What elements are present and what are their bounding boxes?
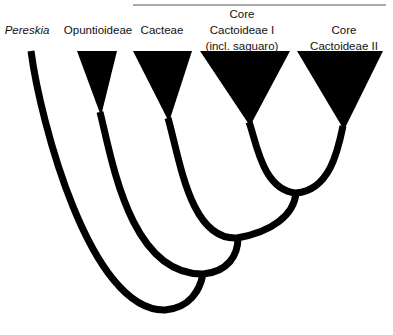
core-cactoideae-2-clade-triangle	[297, 51, 383, 130]
cacteae-clade-triangle	[133, 51, 192, 122]
taxon-label-cacteae: Cacteae	[141, 22, 184, 38]
opuntioideae-clade-triangle	[77, 51, 117, 116]
node-core-branches	[249, 122, 343, 193]
taxon-label-opuntioideae: Opuntioideae	[64, 22, 132, 38]
node-cacteae-branches	[168, 118, 296, 238]
taxon-label-core-cactoideae-2: Core Cactoideae II	[310, 22, 378, 54]
taxon-label-pereskia: Pereskia	[5, 22, 50, 38]
taxon-label-core-cactoideae-1: Core Cactoideae I (incl. saguaro)	[206, 6, 279, 54]
phylogeny-diagram: Cactoideae Pereskia Opuntioideae Cacteae…	[0, 0, 393, 335]
node-opuntioideae-branches	[100, 112, 238, 274]
core-cactoideae-1-clade-triangle	[200, 51, 290, 126]
